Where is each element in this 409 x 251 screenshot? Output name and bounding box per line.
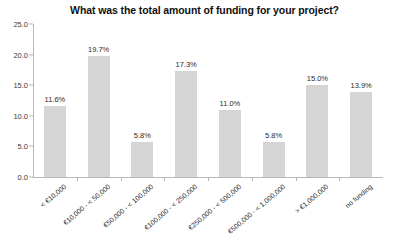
- x-axis-category-label: > €1,000,000: [294, 183, 330, 215]
- bar-value-label: 11.6%: [45, 95, 66, 104]
- bar[interactable]: [175, 71, 197, 177]
- bar[interactable]: [263, 142, 285, 177]
- x-axis-tick-mark: [208, 177, 209, 181]
- x-axis-tick-mark: [164, 177, 165, 181]
- bar[interactable]: [44, 106, 66, 177]
- bar-slot: 13.9%: [339, 24, 383, 177]
- bar-value-label: 5.8%: [265, 131, 282, 140]
- bar[interactable]: [219, 110, 241, 177]
- bar-value-label: 5.8%: [134, 131, 151, 140]
- bar-chart: What was the total amount of funding for…: [0, 0, 409, 251]
- x-axis-tick-mark: [339, 177, 340, 181]
- bar-slot: 5.8%: [121, 24, 165, 177]
- x-axis-tick-mark: [252, 177, 253, 181]
- y-axis-tick-label: 15.0: [0, 81, 28, 90]
- bar-value-label: 15.0%: [307, 74, 328, 83]
- x-axis-category-label: no funding: [344, 183, 374, 209]
- x-axis-tick-mark: [121, 177, 122, 181]
- x-axis-category-label: < €10,000: [39, 183, 68, 209]
- x-axis-category-label-text: €10,000 - < 50,000: [61, 183, 111, 226]
- bar-slot: 17.3%: [164, 24, 208, 177]
- bar-value-label: 17.3%: [175, 60, 196, 69]
- bar-slot: 19.7%: [77, 24, 121, 177]
- y-axis-tick-label: 10.0: [0, 111, 28, 120]
- bar[interactable]: [131, 142, 153, 177]
- bar[interactable]: [88, 56, 110, 177]
- y-axis-tick-label: 5.0: [0, 142, 28, 151]
- x-axis-category-label: €10,000 - < 50,000: [61, 183, 111, 226]
- bar-slot: 11.6%: [33, 24, 77, 177]
- bar-slot: 5.8%: [252, 24, 296, 177]
- x-axis-tick-mark: [296, 177, 297, 181]
- chart-title: What was the total amount of funding for…: [0, 4, 409, 16]
- x-axis-tick-mark: [77, 177, 78, 181]
- y-axis-tick-label: 20.0: [0, 50, 28, 59]
- bar[interactable]: [350, 92, 372, 177]
- y-axis-tick-label: 0.0: [0, 173, 28, 182]
- bar[interactable]: [306, 85, 328, 177]
- bar-value-label: 13.9%: [350, 81, 371, 90]
- bar-slot: 11.0%: [208, 24, 252, 177]
- y-axis-tick-label: 25.0: [0, 20, 28, 29]
- x-axis-category-label-text: < €10,000: [39, 183, 68, 209]
- bar-value-label: 11.0%: [220, 99, 241, 108]
- x-axis-category-label-text: no funding: [344, 183, 374, 209]
- bar-slot: 15.0%: [296, 24, 340, 177]
- bar-value-label: 19.7%: [88, 45, 109, 54]
- x-axis-category-label-text: > €1,000,000: [294, 183, 330, 215]
